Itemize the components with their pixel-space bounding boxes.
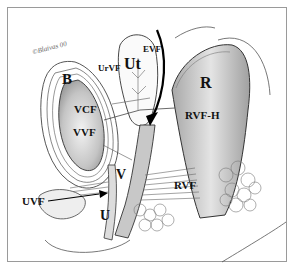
label-rvf: RVF	[174, 180, 196, 191]
label-vcf: VCF	[74, 104, 97, 115]
lower-body-curve	[45, 240, 130, 252]
perineum-curve	[222, 222, 286, 262]
urethra	[104, 165, 116, 240]
label-rectum: R	[200, 75, 212, 91]
label-urethra: U	[100, 209, 110, 223]
label-urvf: UrVF	[98, 64, 121, 73]
label-uterus: Ut	[124, 56, 141, 72]
uvf-arrowhead	[99, 190, 108, 198]
label-evf: EVF	[143, 45, 161, 54]
label-bladder: B	[62, 72, 72, 87]
pelvic-anatomy-illustration	[0, 0, 295, 267]
pubic-bone	[38, 190, 85, 219]
upper-curve	[175, 27, 215, 38]
label-vvf: VVF	[73, 127, 96, 138]
label-rvf-h: RVF-H	[185, 110, 219, 121]
label-vagina: V	[116, 168, 126, 182]
rectum	[172, 45, 250, 218]
label-uvf: UVF	[22, 196, 45, 207]
